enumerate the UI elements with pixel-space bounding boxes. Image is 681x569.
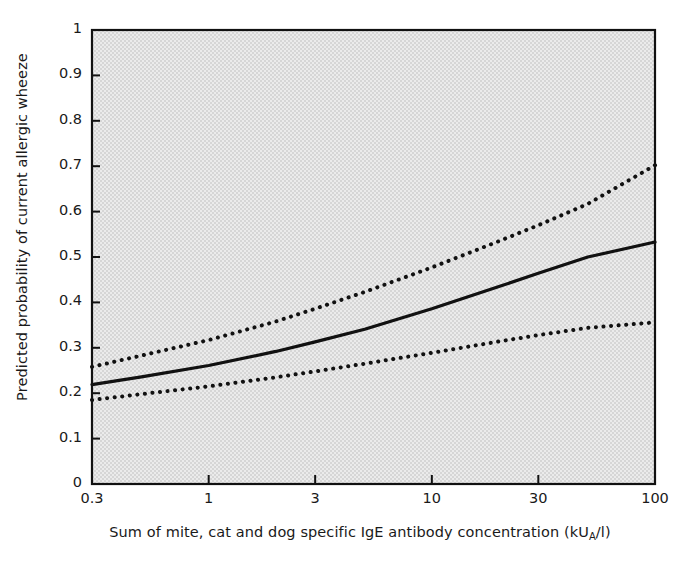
x-tick-label: 3 [285,490,345,506]
y-tick-label: 0.7 [44,156,82,172]
plot-area-background [92,30,655,484]
y-tick-label: 0.5 [44,247,82,263]
x-tick-label: 30 [508,490,568,506]
y-tick-label: 0.3 [44,338,82,354]
y-tick-label: 0.6 [44,202,82,218]
y-tick-label: 0.1 [44,429,82,445]
x-tick-label: 0.3 [62,490,122,506]
y-tick-label: 1 [44,20,82,36]
plot-canvas [0,0,681,569]
x-tick-label: 100 [625,490,681,506]
y-tick-label: 0 [44,474,82,490]
chart-figure: Predicted probability of current allergi… [0,0,681,569]
x-tick-label: 10 [402,490,462,506]
y-tick-label: 0.4 [44,292,82,308]
y-tick-label: 0.9 [44,65,82,81]
y-tick-label: 0.2 [44,383,82,399]
y-tick-label: 0.8 [44,111,82,127]
x-tick-label: 1 [179,490,239,506]
